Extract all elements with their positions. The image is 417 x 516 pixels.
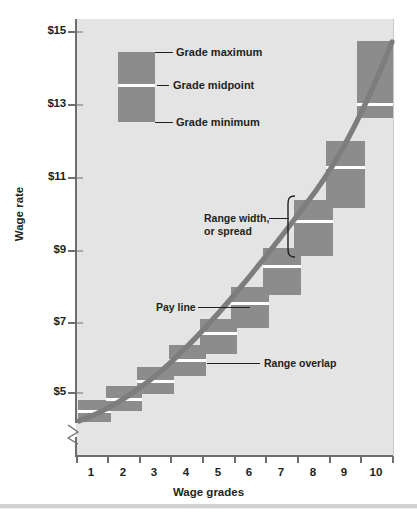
x-tick-boundary-6	[265, 456, 267, 463]
grade-midpoint-line-7	[263, 265, 301, 268]
x-tick-boundary-8	[329, 456, 331, 463]
legend-label-grade-midpoint: Grade midpoint	[173, 79, 254, 91]
x-tick-label-10: 10	[364, 466, 388, 478]
grade-midpoint-line-9	[326, 166, 365, 169]
x-tick-label-5: 5	[206, 466, 230, 478]
x-tick-boundary-2	[139, 456, 141, 463]
y-tick-label-15: $15	[30, 24, 66, 36]
x-tick-boundary-7	[297, 456, 299, 463]
annotation-pay-line-leader	[198, 307, 250, 308]
y-tick-label-13: $13	[30, 97, 66, 109]
annotation-pay-line-label: Pay line	[156, 301, 196, 314]
y-tick-inner-7	[77, 322, 83, 324]
annotation-range-width-line1: Range width,	[204, 212, 269, 225]
x-tick-boundary-10	[392, 456, 394, 463]
x-tick-label-9: 9	[332, 466, 356, 478]
annotation-range-overlap-label: Range overlap	[264, 357, 336, 370]
y-tick-inner-15	[77, 31, 83, 33]
y-tick-13	[68, 104, 76, 106]
grade-midpoint-line-5	[200, 332, 237, 335]
x-tick-label-6: 6	[237, 466, 261, 478]
x-tick-boundary-0	[76, 456, 78, 463]
grade-midpoint-line-8	[294, 220, 333, 223]
x-tick-label-1: 1	[79, 466, 103, 478]
legend-label-grade-maximum: Grade maximum	[176, 46, 262, 58]
y-tick-inner-11	[77, 177, 83, 179]
legend-leader-maximum	[155, 52, 173, 53]
annotation-range-overlap-leader	[207, 363, 260, 364]
x-axis-title: Wage grades	[0, 486, 417, 498]
grade-midpoint-line-10	[357, 103, 393, 106]
grade-midpoint-line-2	[106, 398, 142, 401]
y-tick-label-5: $5	[30, 385, 66, 397]
grade-bar-10	[357, 41, 393, 118]
y-tick-7	[68, 322, 76, 324]
x-tick-label-2: 2	[111, 466, 135, 478]
x-tick-label-8: 8	[301, 466, 325, 478]
grade-bar-8	[294, 200, 333, 256]
grade-midpoint-line-4	[169, 359, 206, 362]
y-tick-inner-9	[77, 250, 83, 252]
annotation-range-width-line2: or spread	[204, 225, 252, 238]
y-tick-label-9: $9	[30, 243, 66, 255]
y-tick-label-11: $11	[30, 170, 66, 182]
y-axis-line-upper	[75, 19, 77, 423]
y-tick-label-7: $7	[30, 315, 66, 327]
x-tick-label-3: 3	[142, 466, 166, 478]
grade-bar-9	[326, 141, 365, 208]
legend-swatch-bar	[118, 52, 155, 122]
x-tick-boundary-1	[107, 456, 109, 463]
x-tick-boundary-4	[202, 456, 204, 463]
y-axis-line-lower	[75, 437, 77, 456]
y-tick-9	[68, 250, 76, 252]
x-tick-boundary-9	[360, 456, 362, 463]
grade-midpoint-line-6	[231, 302, 269, 305]
y-tick-15	[68, 31, 76, 33]
legend-label-grade-minimum: Grade minimum	[176, 116, 260, 128]
x-tick-label-7: 7	[269, 466, 293, 478]
y-tick-11	[68, 177, 76, 179]
wage-structure-chart: $15 $13 $11 $9 $7 $5 1 2 3 4 5 6 7 8 9 1…	[0, 0, 417, 516]
legend-swatch-midpoint-line	[118, 84, 155, 87]
y-tick-inner-5	[77, 392, 83, 394]
x-tick-boundary-5	[234, 456, 236, 463]
x-tick-label-4: 4	[174, 466, 198, 478]
x-tick-boundary-3	[170, 456, 172, 463]
y-axis-title: Wage rate	[13, 159, 25, 269]
legend-leader-midpoint	[157, 85, 169, 86]
grade-midpoint-line-3	[137, 380, 174, 383]
y-tick-inner-13	[77, 104, 83, 106]
annotation-range-width-leader	[269, 218, 289, 219]
y-tick-5	[68, 392, 76, 394]
footer-divider-light	[0, 508, 417, 509]
legend-leader-minimum	[155, 122, 173, 123]
